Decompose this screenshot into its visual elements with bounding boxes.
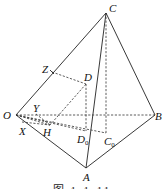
- label-Z: Z: [42, 63, 49, 75]
- figure-caption: 图 1-1-11: [0, 181, 164, 189]
- label-H: H: [42, 126, 52, 138]
- label-B: B: [155, 110, 162, 122]
- tetrahedron-diagram: C O B A Z D H Y X D0 C0: [0, 0, 164, 189]
- edge-DH: [50, 84, 86, 125]
- label-D0: D0: [76, 133, 89, 147]
- label-Y: Y: [33, 102, 41, 114]
- edge-AB: [86, 115, 155, 168]
- edge-CA: [86, 13, 106, 168]
- label-X: X: [18, 125, 27, 137]
- edge-ZD: [52, 72, 86, 84]
- label-C0: C0: [104, 135, 115, 149]
- edge-OC: [16, 13, 106, 115]
- edge-CB: [106, 13, 155, 115]
- edge-OH: [16, 115, 50, 125]
- label-C: C: [109, 2, 117, 14]
- label-O: O: [3, 109, 11, 121]
- label-D: D: [83, 71, 92, 83]
